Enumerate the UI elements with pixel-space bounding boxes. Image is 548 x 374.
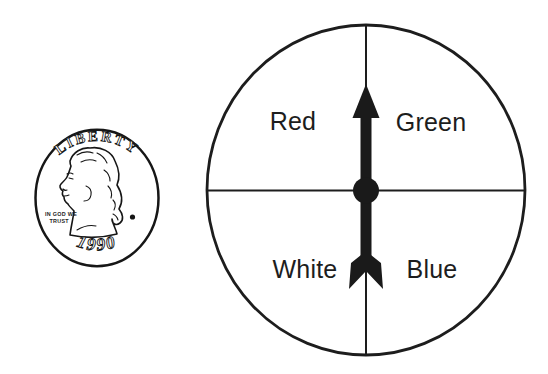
spinner-label-white: White <box>273 255 338 283</box>
motto-line-2: TRUST <box>50 218 70 224</box>
spinner-label-blue: Blue <box>407 255 458 283</box>
spinner-label-green: Green <box>396 108 466 136</box>
figure-canvas: LIBERTY IN GOD WE TRUST 1990 Red Green W… <box>0 0 548 374</box>
spinner: Red Green White Blue <box>207 25 525 355</box>
quarter-coin: LIBERTY IN GOD WE TRUST 1990 <box>36 128 159 266</box>
mint-mark-dot <box>130 214 135 219</box>
spinner-label-red: Red <box>270 107 316 135</box>
motto-line-1: IN GOD WE <box>45 211 77 217</box>
probability-figure: LIBERTY IN GOD WE TRUST 1990 Red Green W… <box>0 0 548 374</box>
arrow-hub <box>353 178 379 204</box>
